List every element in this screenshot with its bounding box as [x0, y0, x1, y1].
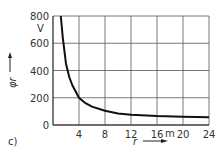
x-tick-label: 24: [203, 129, 216, 140]
svg-text:φr: φr: [7, 76, 18, 88]
y-tick-label: 200: [30, 93, 49, 104]
panel-label: c): [8, 136, 17, 147]
y-tick-label: 400: [30, 66, 49, 77]
x-tick-label: 4: [76, 129, 82, 140]
arrow-right-icon: [161, 139, 168, 143]
x-unit-label: m: [165, 128, 175, 139]
grid: [53, 16, 209, 125]
x-tick-label: 8: [102, 129, 108, 140]
x-tick-labels: 4812162024: [76, 129, 216, 140]
x-tick-label: 16: [151, 129, 164, 140]
x-tick-label: 20: [177, 129, 190, 140]
arrow-up-icon: [8, 52, 12, 58]
potential-vs-distance-chart: 0200400600800 4812162024 V φr r m c): [0, 0, 224, 151]
y-axis-label: φr: [7, 52, 18, 88]
y-tick-label: 600: [30, 38, 49, 49]
y-tick-label: 0: [43, 120, 49, 131]
data-curve: [61, 16, 209, 117]
y-tick-label: 800: [30, 11, 49, 22]
y-unit-label: V: [37, 23, 44, 34]
